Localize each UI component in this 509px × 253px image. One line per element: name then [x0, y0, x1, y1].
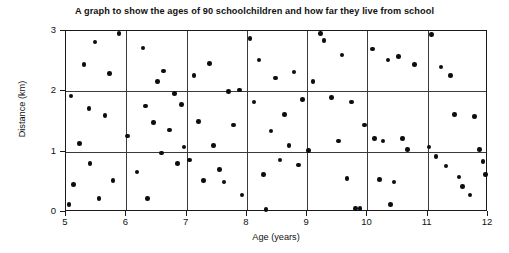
data-point [477, 147, 482, 152]
data-point [381, 139, 386, 144]
data-point [282, 112, 287, 117]
y-axis-tick [60, 30, 65, 31]
data-point [434, 154, 439, 159]
data-point [97, 196, 102, 201]
data-point [111, 178, 116, 183]
data-point [172, 91, 177, 96]
data-point [155, 79, 160, 84]
data-point [452, 112, 457, 117]
x-axis-tick-label: 8 [234, 216, 258, 227]
data-point [231, 123, 236, 128]
x-axis-tick-label: 12 [475, 216, 499, 227]
data-point [187, 158, 192, 163]
data-point [201, 178, 206, 183]
data-point [93, 40, 98, 45]
data-point [329, 95, 334, 100]
x-axis-tick-label: 5 [53, 216, 77, 227]
data-point [207, 61, 212, 66]
x-axis-tick-label: 6 [113, 216, 137, 227]
data-point [87, 106, 92, 111]
chart-title: A graph to show the ages of 90 schoolchi… [0, 6, 509, 16]
data-point [257, 58, 262, 63]
data-point [69, 94, 74, 99]
data-point [362, 123, 367, 128]
data-point [386, 58, 391, 63]
data-point [400, 136, 405, 141]
data-point [67, 202, 72, 207]
data-point [161, 69, 166, 74]
data-point [248, 36, 253, 41]
gridline-vertical [428, 31, 429, 210]
data-point [345, 176, 350, 181]
gridline-vertical [307, 31, 308, 210]
data-point [349, 100, 354, 105]
data-point [429, 32, 434, 37]
data-point [377, 177, 382, 182]
data-point [457, 175, 462, 180]
data-point [175, 161, 180, 166]
data-point [300, 97, 305, 102]
data-point [481, 159, 486, 164]
gridline-vertical [187, 31, 188, 210]
data-point [427, 145, 432, 150]
data-point [252, 100, 257, 105]
gridline-horizontal [66, 91, 486, 92]
data-point [107, 71, 112, 76]
data-point [222, 180, 227, 185]
data-point [448, 73, 453, 78]
data-point [117, 31, 122, 36]
data-point [372, 136, 377, 141]
data-point [322, 38, 327, 43]
data-point [472, 114, 477, 119]
data-point [311, 79, 316, 84]
data-point [340, 53, 345, 58]
data-point [192, 73, 197, 78]
data-point [444, 164, 449, 169]
data-point [103, 113, 108, 118]
data-point [261, 172, 266, 177]
data-point [396, 54, 401, 59]
data-point [135, 170, 140, 175]
data-point [306, 148, 311, 153]
data-point [217, 167, 222, 172]
y-axis-tick [60, 90, 65, 91]
data-point [460, 184, 465, 189]
data-point [412, 62, 417, 67]
data-point [143, 104, 148, 109]
data-point [71, 182, 76, 187]
data-point [159, 151, 164, 156]
data-point [287, 143, 292, 148]
y-axis-tick-label: 2 [40, 84, 56, 95]
data-point [269, 129, 274, 134]
x-axis-tick-label: 7 [174, 216, 198, 227]
x-axis-tick-label: 11 [415, 216, 439, 227]
data-point [82, 62, 87, 67]
data-point [405, 147, 410, 152]
data-point [388, 202, 393, 207]
data-point [278, 158, 283, 163]
plot-area [65, 30, 487, 211]
data-point [392, 180, 397, 185]
data-point [358, 206, 363, 211]
data-point [336, 139, 341, 144]
data-point [141, 46, 146, 51]
gridline-horizontal [66, 152, 486, 153]
data-point [318, 31, 323, 36]
data-point [77, 141, 82, 146]
data-point [468, 193, 473, 198]
scatter-chart-figure: A graph to show the ages of 90 schoolchi… [0, 0, 509, 253]
data-point [292, 70, 297, 75]
data-point [196, 119, 201, 124]
data-point [264, 207, 269, 212]
y-axis-tick-label: 1 [40, 145, 56, 156]
data-point [353, 206, 358, 211]
data-point [167, 128, 172, 133]
data-point [145, 196, 150, 201]
data-point [296, 163, 301, 168]
data-point [125, 134, 130, 139]
y-axis-label: Distance (km) [17, 49, 27, 169]
data-point [439, 65, 444, 70]
data-point [88, 161, 93, 166]
x-axis-tick-label: 9 [294, 216, 318, 227]
y-axis-tick [60, 151, 65, 152]
